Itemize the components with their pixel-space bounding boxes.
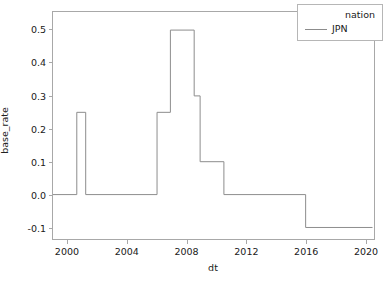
x-tick-label: 2020 (354, 246, 378, 257)
x-axis-label: dt (208, 262, 218, 273)
x-tick-mark (306, 240, 307, 244)
y-tick-label: 0.4 (14, 57, 46, 68)
legend: nation JPN (297, 4, 383, 41)
legend-title: nation (305, 9, 376, 21)
x-tick-mark (366, 240, 367, 244)
legend-entry[interactable]: JPN (305, 23, 376, 35)
y-tick-label: -0.1 (14, 223, 46, 234)
y-tick-label: 0.3 (14, 90, 46, 101)
legend-entry-label: JPN (332, 23, 348, 35)
x-tick-label: 2012 (234, 246, 258, 257)
x-tick-label: 2004 (115, 246, 139, 257)
x-tick-label: 2000 (55, 246, 79, 257)
legend-entries: JPN (305, 23, 376, 35)
series-jpn-polyline (53, 30, 373, 227)
x-tick-mark (67, 240, 68, 244)
legend-line-swatch (305, 29, 327, 30)
y-tick-label: 0.1 (14, 157, 46, 168)
x-tick-label: 2008 (174, 246, 198, 257)
y-tick-label: 0.0 (14, 190, 46, 201)
x-tick-label: 2016 (294, 246, 318, 257)
x-tick-mark (187, 240, 188, 244)
x-tick-mark (127, 240, 128, 244)
y-tick-label: 0.5 (14, 24, 46, 35)
x-tick-mark (246, 240, 247, 244)
series-jpn-line (53, 12, 374, 239)
plot-area (52, 11, 375, 240)
chart-figure: base_rate dt -0.10.00.10.20.30.40.5 2000… (0, 0, 387, 286)
y-tick-label: 0.2 (14, 123, 46, 134)
y-axis-label: base_rate (0, 107, 10, 154)
